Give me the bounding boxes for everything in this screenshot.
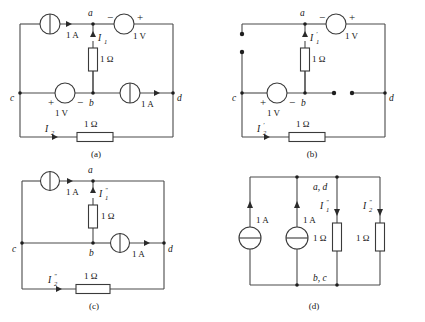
arrow-i1-d xyxy=(334,209,340,216)
node-b-dot-c xyxy=(91,241,95,245)
node-label-d-c: d xyxy=(168,244,173,254)
node-label-bottom-d: b, c xyxy=(313,273,328,283)
sign-plus-mid-a: + xyxy=(48,96,54,108)
caption-a: (a) xyxy=(91,149,101,159)
node-label-c-c: c xyxy=(12,244,17,254)
arrow-mid-c xyxy=(144,240,150,246)
circuit-svg-a: 1 A − + 1 V a I 1 1 Ω + − 1 V 1 A b c d … xyxy=(0,0,212,161)
label-top-voltage-a: 1 V xyxy=(133,31,147,41)
label-resistor-bottom-c: 1 Ω xyxy=(84,271,98,281)
node-a-dot-c xyxy=(91,179,95,183)
node-label-d-b: d xyxy=(389,93,394,103)
label-source-left-d: 1 A xyxy=(256,215,269,225)
label-top-current-a: 1 A xyxy=(66,30,79,40)
circuit-panel-d: 1 A 1 A a, d b, c I 1 ″ 1 Ω I 2 ″ 1 Ω (d… xyxy=(212,161,424,322)
open-dot-mid-right-b xyxy=(350,91,354,95)
resistor-bottom-c xyxy=(76,285,110,294)
label-i2-sub-b: 2 xyxy=(263,129,267,136)
circuit-svg-b: − + 1 V a I 1 ′ 1 Ω + − 1 V b c d I 2 ′ … xyxy=(212,0,424,161)
resistor-vertical-c xyxy=(89,205,98,228)
label-mid-current-a: 1 A xyxy=(141,99,154,109)
caption-d: (d) xyxy=(309,301,320,311)
node-c-dot-b xyxy=(240,91,244,95)
arrow-source-left-d xyxy=(247,201,253,208)
node-b-dot-b xyxy=(303,91,307,95)
label-resistor-bottom-a: 1 Ω xyxy=(84,119,98,129)
label-i1-sub-b: 1 xyxy=(316,38,319,45)
node-d-dot xyxy=(171,91,175,95)
sign-minus-top-a: − xyxy=(107,11,113,23)
node-d-dot-b xyxy=(383,91,387,95)
sign-minus-mid-b: − xyxy=(289,96,295,108)
current-source-mid-a xyxy=(120,83,140,103)
resistor-vertical-b xyxy=(301,48,310,71)
voltage-source-mid-b xyxy=(267,83,287,103)
current-source-top-c xyxy=(41,172,60,191)
circuit-panel-a: 1 A − + 1 V a I 1 1 Ω + − 1 V 1 A b c d … xyxy=(0,0,212,161)
label-i1-prime-d: ″ xyxy=(326,198,329,205)
circuit-svg-d: 1 A 1 A a, d b, c I 1 ″ 1 Ω I 2 ″ 1 Ω (d… xyxy=(212,161,424,322)
label-resistor-bottom-b: 1 Ω xyxy=(296,119,310,129)
resistor-bottom-b xyxy=(289,133,325,142)
node-label-d: d xyxy=(177,93,182,103)
label-i2-a: I xyxy=(44,124,49,134)
label-i1-sub-d: 1 xyxy=(326,206,329,213)
open-dot-top-lower-b xyxy=(240,50,244,54)
node-label-b-c: b xyxy=(89,248,94,258)
label-i2-c: I xyxy=(47,275,52,285)
node-label-b-b: b xyxy=(301,98,306,108)
node-label-a-b: a xyxy=(300,8,305,18)
label-top-current-c: 1 A xyxy=(66,187,79,197)
sign-minus-mid-a: − xyxy=(77,96,83,108)
label-resistor-vertical-c: 1 Ω xyxy=(101,211,115,221)
resistor-bottom-a xyxy=(77,133,113,142)
circuit-panel-b: − + 1 V a I 1 ′ 1 Ω + − 1 V b c d I 2 ′ … xyxy=(212,0,424,161)
node-a-dot xyxy=(91,22,95,26)
label-i2-prime-b: ′ xyxy=(263,121,265,128)
arrow-top-c xyxy=(67,178,73,184)
circuit-svg-c: 1 A a I 1 ″ 1 Ω 1 A b c d I 2 ″ 1 Ω (c) xyxy=(0,161,212,322)
caption-c: (c) xyxy=(89,301,99,311)
label-mid-voltage-b: 1 V xyxy=(267,108,281,118)
label-i1-a: I xyxy=(97,33,102,43)
label-i2-b: I xyxy=(256,124,261,134)
sign-plus-top-b: + xyxy=(349,11,355,23)
label-resistor-vertical-b: 1 Ω xyxy=(312,54,326,64)
node-d-dot-c xyxy=(162,241,166,245)
circuit-panel-c: 1 A a I 1 ″ 1 Ω 1 A b c d I 2 ″ 1 Ω (c) xyxy=(0,161,212,322)
label-i2-sub-d: 2 xyxy=(369,206,373,213)
label-i1-prime-c: ″ xyxy=(105,186,108,193)
current-source-top-a xyxy=(40,14,60,34)
label-resistor-2-d: 1 Ω xyxy=(356,233,370,243)
label-resistor-1-d: 1 Ω xyxy=(313,233,327,243)
label-mid-voltage-a: 1 V xyxy=(55,108,69,118)
sign-plus-top-a: + xyxy=(137,11,143,23)
arrow-i2-c xyxy=(56,286,62,292)
arrow-mid-a xyxy=(154,90,160,96)
arrow-i2-d xyxy=(377,209,383,216)
label-i2-sub-c: 2 xyxy=(54,280,58,287)
resistor-1-d xyxy=(333,223,342,251)
current-source-left-d xyxy=(239,227,261,249)
node-label-c-b: c xyxy=(232,93,237,103)
label-i1-prime-b: ′ xyxy=(316,30,318,37)
voltage-source-top-a xyxy=(114,14,134,34)
arrow-i1-a xyxy=(90,31,96,37)
node-a-dot-b xyxy=(303,22,307,26)
node-b-dot xyxy=(91,91,95,95)
label-i1-d: I xyxy=(319,201,324,211)
label-i1-c: I xyxy=(98,189,103,199)
arrow-i1-b xyxy=(302,31,308,37)
node-bottom-dot-r1-d xyxy=(335,283,339,287)
node-label-b: b xyxy=(89,98,94,108)
current-source-second-d xyxy=(286,227,308,249)
open-dot-top-upper-b xyxy=(240,32,244,36)
voltage-source-mid-a xyxy=(55,83,75,103)
label-i2-sub-a: 2 xyxy=(51,129,55,136)
wires-d xyxy=(250,177,380,285)
open-dot-mid-left-b xyxy=(332,91,336,95)
voltage-source-top-b xyxy=(326,14,346,34)
label-resistor-vertical-a: 1 Ω xyxy=(100,54,114,64)
label-source-second-d: 1 A xyxy=(303,215,316,225)
label-i1-b: I xyxy=(309,33,314,43)
